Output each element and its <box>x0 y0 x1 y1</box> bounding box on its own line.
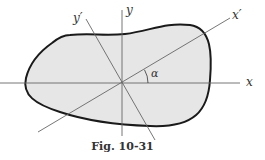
diagram-canvas <box>0 0 265 160</box>
x-prime-axis-label: x′ <box>232 9 242 21</box>
y-axis-label: y <box>126 4 133 16</box>
x-axis-label: x <box>246 76 253 88</box>
figure-caption: Fig. 10-31 <box>0 140 245 153</box>
y-prime-axis-label: y′ <box>73 12 83 24</box>
angle-alpha-label: α <box>151 68 158 79</box>
